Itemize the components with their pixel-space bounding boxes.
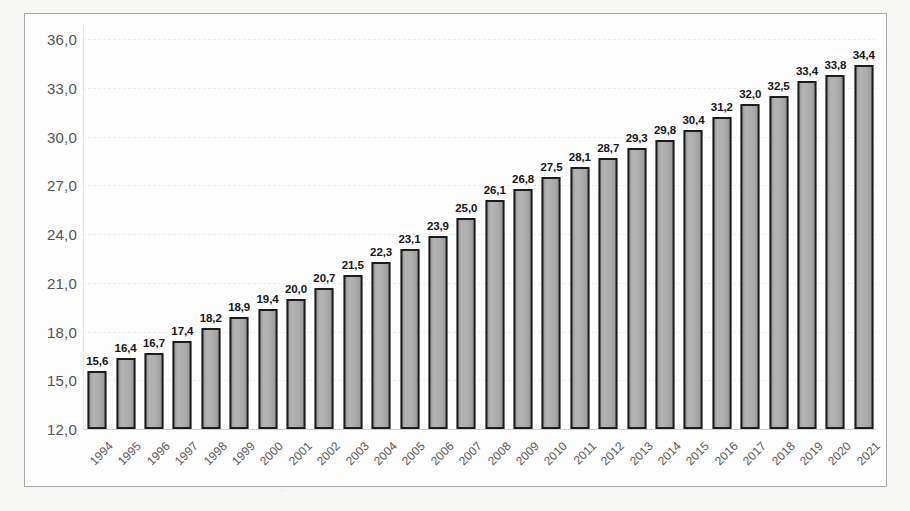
bar-value-label: 26,8	[512, 173, 534, 185]
bar-value-label: 23,1	[399, 233, 421, 245]
bar-slot: 29,3	[622, 14, 650, 486]
bar-slot: 21,5	[339, 14, 367, 486]
bar-slot: 23,9	[424, 14, 452, 486]
bar-value-label: 23,9	[427, 220, 449, 232]
bar-value-label: 32,5	[768, 80, 790, 92]
bar-slot: 31,2	[708, 14, 736, 486]
bar[interactable]	[88, 371, 107, 430]
bar-value-label: 30,4	[682, 114, 704, 126]
bar-slot: 33,4	[793, 14, 821, 486]
bar-slot: 19,4	[253, 14, 281, 486]
bar-value-label: 17,4	[171, 325, 193, 337]
bar-value-label: 26,1	[484, 184, 506, 196]
bar-slot: 20,0	[282, 14, 310, 486]
bar-slot: 23,1	[395, 14, 423, 486]
y-axis-tick-label: 24,0	[25, 226, 77, 243]
bar-value-label: 34,4	[853, 49, 875, 61]
y-axis-tick-label: 15,0	[25, 372, 77, 389]
bar[interactable]	[116, 358, 135, 430]
bar[interactable]	[741, 104, 760, 429]
bar-value-label: 20,7	[313, 272, 335, 284]
bar-slot: 18,9	[225, 14, 253, 486]
bar[interactable]	[343, 275, 362, 429]
bar[interactable]	[230, 317, 249, 429]
bar[interactable]	[286, 299, 305, 429]
bar-value-label: 22,3	[370, 246, 392, 258]
bar[interactable]	[826, 75, 845, 429]
bar[interactable]	[599, 158, 618, 429]
bar[interactable]	[201, 328, 220, 429]
bar-value-label: 15,6	[86, 355, 108, 367]
bar-value-label: 32,0	[739, 88, 761, 100]
bar-value-label: 28,1	[569, 151, 591, 163]
bar-slot: 32,0	[736, 14, 764, 486]
bar-value-label: 33,8	[824, 59, 846, 71]
bar[interactable]	[542, 177, 561, 429]
bar-slot: 32,5	[764, 14, 792, 486]
bar[interactable]	[570, 167, 589, 429]
bar[interactable]	[769, 96, 788, 429]
bar-series: 15,616,416,717,418,218,919,420,020,721,5…	[83, 14, 876, 486]
bar-value-label: 21,5	[342, 259, 364, 271]
y-axis-tick-label: 33,0	[25, 79, 77, 96]
y-axis-tick-label: 12,0	[25, 421, 77, 438]
bar[interactable]	[854, 65, 873, 429]
bar-value-label: 28,7	[597, 142, 619, 154]
bar-slot: 17,4	[168, 14, 196, 486]
y-axis-tick-label: 27,0	[25, 177, 77, 194]
bar-slot: 28,1	[566, 14, 594, 486]
bar-value-label: 19,4	[257, 293, 279, 305]
bar[interactable]	[173, 341, 192, 429]
bar[interactable]	[144, 353, 163, 429]
bar-value-label: 31,2	[711, 101, 733, 113]
y-axis-tick-label: 18,0	[25, 323, 77, 340]
bar[interactable]	[315, 288, 334, 429]
bar-slot: 16,7	[140, 14, 168, 486]
y-axis-tick-label: 36,0	[25, 31, 77, 48]
bar-slot: 30,4	[679, 14, 707, 486]
bar[interactable]	[798, 81, 817, 429]
bar[interactable]	[712, 117, 731, 429]
bar-value-label: 18,2	[200, 312, 222, 324]
bar[interactable]	[514, 189, 533, 430]
bar-value-label: 16,4	[115, 342, 137, 354]
bar[interactable]	[428, 236, 447, 429]
bar-value-label: 29,3	[626, 132, 648, 144]
bar-value-label: 27,5	[540, 161, 562, 173]
bar-slot: 26,1	[481, 14, 509, 486]
bar[interactable]	[372, 262, 391, 429]
bar-value-label: 16,7	[143, 337, 165, 349]
bar-slot: 33,8	[821, 14, 849, 486]
bar[interactable]	[485, 200, 504, 429]
bar-slot: 29,8	[651, 14, 679, 486]
bar-value-label: 20,0	[285, 283, 307, 295]
bar[interactable]	[457, 218, 476, 429]
y-axis-tick-label: 30,0	[25, 128, 77, 145]
bar-slot: 34,4	[850, 14, 878, 486]
bar-value-label: 18,9	[228, 301, 250, 313]
y-axis-tick-label: 21,0	[25, 274, 77, 291]
bar[interactable]	[627, 148, 646, 429]
bar-value-label: 25,0	[455, 202, 477, 214]
bar-value-label: 29,8	[654, 124, 676, 136]
bar-slot: 26,8	[509, 14, 537, 486]
bar-slot: 15,6	[83, 14, 111, 486]
bar-slot: 18,2	[197, 14, 225, 486]
bar[interactable]	[656, 140, 675, 429]
chart-frame: 36,033,030,027,024,021,018,015,012,0 15,…	[24, 13, 887, 487]
bar-slot: 22,3	[367, 14, 395, 486]
bar[interactable]	[684, 130, 703, 429]
bar-slot: 28,7	[594, 14, 622, 486]
bar-slot: 16,4	[111, 14, 139, 486]
bar[interactable]	[258, 309, 277, 429]
y-axis-line	[83, 25, 84, 429]
bar[interactable]	[400, 249, 419, 429]
plot-area: 36,033,030,027,024,021,018,015,012,0 15,…	[25, 14, 886, 486]
bar-slot: 20,7	[310, 14, 338, 486]
bar-slot: 25,0	[452, 14, 480, 486]
bar-slot: 27,5	[537, 14, 565, 486]
bar-value-label: 33,4	[796, 65, 818, 77]
